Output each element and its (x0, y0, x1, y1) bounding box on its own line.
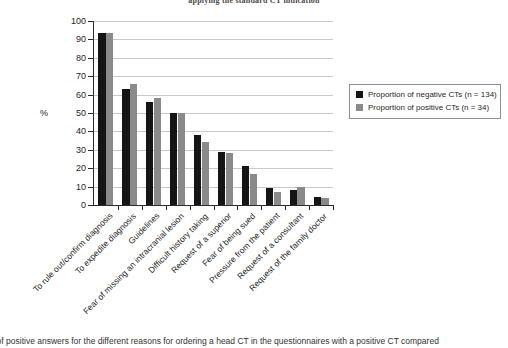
chart-legend: Proportion of negative CTs (n = 134) Pro… (349, 84, 501, 119)
x-tick-mark (166, 206, 167, 210)
x-tick-mark (190, 206, 191, 210)
x-tick-mark (237, 206, 238, 210)
legend-item-positive: Proportion of positive CTs (n = 34) (356, 103, 494, 112)
legend-item-negative: Proportion of negative CTs (n = 134) (356, 90, 494, 99)
y-tick-mark (88, 150, 93, 151)
y-tick-mark (88, 205, 93, 206)
x-tick-mark (142, 206, 143, 210)
y-tick-mark (88, 21, 93, 22)
y-tick-mark (88, 39, 93, 40)
legend-swatch-negative-icon (356, 91, 363, 98)
figure-caption: s of positive answers for the different … (0, 336, 508, 348)
x-axis-category-labels: To rule out/confirm diagnosisTo expedite… (0, 0, 508, 348)
legend-label-positive: Proportion of positive CTs (n = 34) (368, 103, 489, 112)
x-tick-mark (118, 206, 119, 210)
y-tick-mark (88, 95, 93, 96)
y-tick-mark (88, 187, 93, 188)
x-tick-mark (261, 206, 262, 210)
x-tick-mark (333, 206, 334, 210)
legend-label-negative: Proportion of negative CTs (n = 134) (368, 90, 497, 99)
y-tick-mark (88, 58, 93, 59)
x-tick-mark (285, 206, 286, 210)
y-tick-mark (88, 168, 93, 169)
y-tick-mark (88, 76, 93, 77)
y-tick-mark (88, 131, 93, 132)
x-tick-mark (309, 206, 310, 210)
x-tick-mark (214, 206, 215, 210)
legend-swatch-positive-icon (356, 104, 363, 111)
bar-chart-figure: applying the standard CT indication % 10… (0, 0, 508, 348)
y-tick-mark (88, 113, 93, 114)
